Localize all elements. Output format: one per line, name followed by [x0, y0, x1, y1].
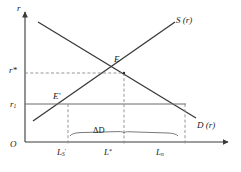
equilibrium-point-marker: [123, 72, 125, 74]
delta-d-label: ΔD: [93, 126, 105, 135]
tick-label-L-s: LS′: [57, 148, 66, 158]
diagram-canvas: [0, 0, 241, 172]
tick-label-r-one: r1: [10, 100, 16, 109]
tick-label-L-n: Ln: [156, 148, 164, 157]
supply-curve-label: S (r): [176, 16, 192, 25]
tick-label-r-star: r*: [9, 66, 17, 75]
tick-label-L-star: L*: [104, 148, 112, 157]
supply-curve: [33, 22, 175, 121]
supply-demand-diagram: r O r* r1 S (r) D (r) E E' LS′ L* Ln ΔD: [0, 0, 241, 172]
origin-label: O: [10, 140, 17, 149]
constrained-point-label: E': [53, 92, 60, 101]
demand-curve-label: D (r): [197, 121, 215, 130]
equilibrium-point-label: E: [114, 55, 120, 64]
y-axis-label: r: [17, 4, 21, 13]
